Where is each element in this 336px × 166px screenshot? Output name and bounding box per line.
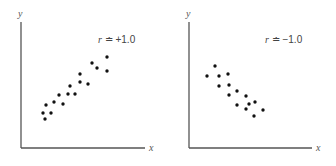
data-point <box>105 69 108 72</box>
data-point <box>90 61 93 64</box>
data-point <box>105 55 108 58</box>
scatter-positive-correlation: y x r ≐ +1.0 <box>0 0 168 166</box>
data-point <box>226 72 229 75</box>
scatter-negative-correlation: y x r ≐ −1.0 <box>168 0 336 166</box>
data-point <box>213 64 216 67</box>
data-point <box>261 108 264 111</box>
data-point <box>244 94 247 97</box>
data-point <box>217 84 220 87</box>
r-symbol: r <box>265 34 269 45</box>
x-axis-label: x <box>149 143 153 153</box>
data-point <box>217 74 220 77</box>
x-axis-label: x <box>316 143 320 153</box>
data-point <box>235 89 238 92</box>
data-point <box>49 111 52 114</box>
data-point <box>78 80 81 83</box>
data-point <box>95 66 98 69</box>
data-point <box>244 107 247 110</box>
r-value: ≐ +1.0 <box>105 34 136 45</box>
y-axis-label: y <box>186 9 190 19</box>
plot-area-positive <box>0 0 168 166</box>
data-point <box>61 102 64 105</box>
data-point <box>227 83 230 86</box>
data-point <box>66 92 69 95</box>
data-point <box>227 93 230 96</box>
correlation-annotation: r ≐ +1.0 <box>98 35 135 45</box>
data-point <box>205 74 208 77</box>
r-value: ≐ −1.0 <box>272 34 303 45</box>
data-point <box>253 100 256 103</box>
r-symbol: r <box>98 34 102 45</box>
plot-area-negative <box>168 0 336 166</box>
data-point <box>86 82 89 85</box>
data-point <box>78 72 81 75</box>
data-point <box>41 111 44 114</box>
data-point <box>235 103 238 106</box>
data-point <box>44 103 47 106</box>
data-point <box>57 93 60 96</box>
y-axis-label: y <box>18 9 22 19</box>
data-point <box>52 100 55 103</box>
data-point <box>73 92 76 95</box>
data-point <box>43 117 46 120</box>
data-point <box>68 84 71 87</box>
data-point <box>247 102 250 105</box>
data-point <box>252 114 255 117</box>
correlation-annotation: r ≐ −1.0 <box>265 35 302 45</box>
